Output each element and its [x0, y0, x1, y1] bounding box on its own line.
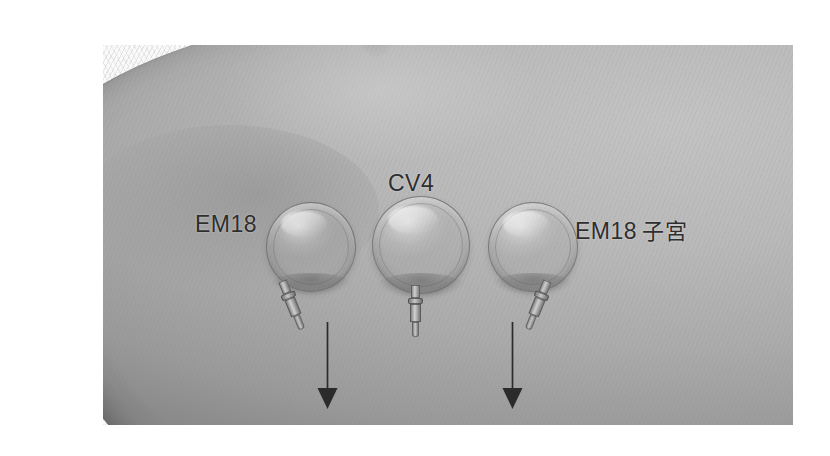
- annotation-label-em18-right-text: EM18: [575, 218, 637, 244]
- cup-gloss: [503, 211, 549, 237]
- annotation-arrow-right: [498, 318, 528, 414]
- annotation-label-em18-right: EM18子宮: [575, 213, 687, 245]
- annotation-label-em18-left: EM18: [195, 211, 257, 238]
- valve-tip: [293, 314, 305, 331]
- cupping-cup-left: [266, 202, 356, 292]
- annotation-label-em18-left-text: EM18: [195, 211, 257, 237]
- arrow-head: [503, 388, 523, 409]
- cupping-cup-center: [372, 196, 470, 294]
- arrow-head: [318, 388, 338, 409]
- annotation-label-cv4: CV4: [388, 170, 434, 197]
- valve-neck: [411, 285, 420, 298]
- cup-gloss: [281, 211, 327, 237]
- figure-root: EM18 CV4 EM18子宮: [0, 0, 830, 456]
- annotation-label-cv4-text: CV4: [388, 170, 434, 196]
- cup-valve-center: [408, 285, 423, 337]
- cupping-cup-right: [488, 202, 578, 292]
- valve-body: [410, 304, 421, 322]
- annotation-arrow-left: [313, 318, 343, 414]
- annotation-label-em18-right-cjk: 子宮: [637, 219, 687, 244]
- valve-tip: [412, 322, 419, 337]
